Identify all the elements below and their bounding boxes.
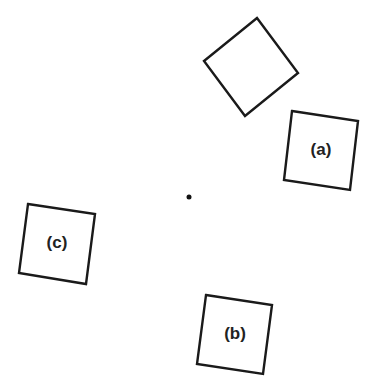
square-unlabeled-outline — [204, 18, 298, 116]
square-a: (a) — [284, 111, 358, 190]
diagram-canvas: (a) (b) (c) — [0, 0, 373, 392]
center-point — [187, 195, 192, 200]
square-b: (b) — [197, 295, 272, 374]
square-c: (c) — [19, 204, 95, 284]
square-unlabeled — [204, 18, 298, 116]
square-a-label: (a) — [311, 140, 332, 159]
square-b-label: (b) — [224, 324, 246, 343]
square-c-label: (c) — [47, 233, 68, 252]
